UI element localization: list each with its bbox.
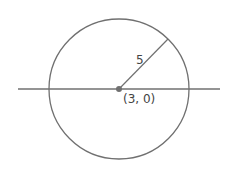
- circle-diagram: 5 (3, 0): [0, 0, 232, 180]
- radius-label: 5: [136, 53, 144, 67]
- center-label: (3, 0): [123, 92, 155, 106]
- center-point: [116, 86, 122, 92]
